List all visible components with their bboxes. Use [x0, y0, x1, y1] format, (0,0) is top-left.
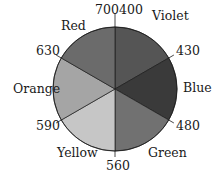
label-green: Green: [148, 147, 187, 160]
wedges: [53, 27, 177, 151]
label-orange: Orange: [13, 83, 60, 96]
boundary-430: 430: [176, 45, 200, 58]
label-violet: Violet: [152, 10, 189, 23]
boundary-480: 480: [176, 120, 200, 133]
label-blue: Blue: [183, 82, 212, 95]
tick-60: [169, 55, 174, 58]
label-red: Red: [61, 20, 86, 33]
boundary-700: 700: [95, 4, 119, 17]
boundary-400: 400: [119, 4, 143, 17]
boundary-630: 630: [36, 45, 60, 58]
label-yellow: Yellow: [57, 147, 98, 160]
tick-120: [169, 120, 174, 123]
boundary-590: 590: [36, 120, 60, 133]
boundary-560: 560: [106, 160, 130, 173]
